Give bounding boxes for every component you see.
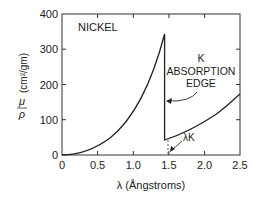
svg-text:400: 400 xyxy=(40,8,58,20)
svg-text:ABSORPTION: ABSORPTION xyxy=(167,65,236,77)
edge-label: K ABSORPTION EDGE xyxy=(167,52,236,89)
svg-text:1.5: 1.5 xyxy=(161,159,176,171)
svg-text:200: 200 xyxy=(40,79,58,91)
x-tick-labels: 0 0.5 1.0 1.5 2.0 2.5 xyxy=(59,159,248,171)
lambda-k-label: λK xyxy=(183,132,195,143)
svg-text:K: K xyxy=(197,52,204,64)
svg-text:EDGE: EDGE xyxy=(186,77,216,89)
svg-text:μ: μ xyxy=(18,95,25,107)
svg-text:1.0: 1.0 xyxy=(126,159,141,171)
edge-arrowhead xyxy=(166,98,172,104)
y-tick-labels: 0 100 200 300 400 xyxy=(40,8,58,161)
lambda-k-arrowhead xyxy=(170,146,175,152)
svg-text:ρ: ρ xyxy=(18,108,25,120)
svg-text:300: 300 xyxy=(40,43,58,55)
svg-text:0: 0 xyxy=(59,159,65,171)
svg-text:100: 100 xyxy=(40,114,58,126)
svg-text:0.5: 0.5 xyxy=(90,159,105,171)
material-label: NICKEL xyxy=(78,21,118,33)
y-axis-label: μ ρ (cm²/gm) xyxy=(17,53,29,120)
svg-text:0: 0 xyxy=(52,149,58,161)
absorption-curve xyxy=(62,34,240,155)
chart: 0 100 200 300 400 0 0.5 1.0 1.5 2.0 2.5 … xyxy=(0,0,258,200)
edge-arrow xyxy=(168,92,197,101)
x-axis-label: λ (Ångstroms) xyxy=(117,179,185,191)
svg-text:(cm²/gm): (cm²/gm) xyxy=(18,53,29,93)
svg-text:2.5: 2.5 xyxy=(232,159,247,171)
svg-text:2.0: 2.0 xyxy=(197,159,212,171)
